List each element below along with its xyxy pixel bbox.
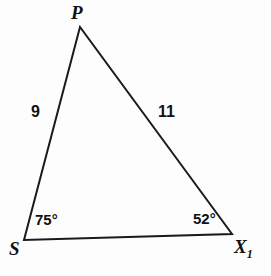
triangle-shape [24, 27, 232, 240]
side-length-label-right: 11 [158, 104, 175, 120]
vertex-label-p: P [71, 3, 83, 22]
triangle-outline [0, 0, 271, 276]
vertex-label-x1-subscript: 1 [247, 247, 253, 261]
side-length-label-left: 9 [31, 104, 40, 120]
angle-label-s: 75° [35, 212, 58, 227]
angle-label-x1: 52° [193, 211, 216, 226]
vertex-label-x1-base: X [234, 236, 247, 257]
vertex-label-x1: X1 [234, 237, 253, 260]
triangle-diagram: P S X1 9 11 75° 52° [0, 0, 271, 276]
vertex-label-s: S [9, 239, 20, 258]
